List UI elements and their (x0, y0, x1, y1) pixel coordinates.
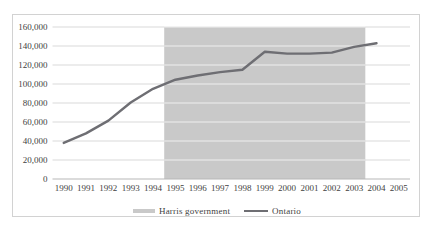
x-axis-label: 2004 (367, 183, 386, 193)
x-axis-label: 1992 (99, 183, 117, 193)
y-axis-label: 60,000 (23, 117, 48, 127)
x-axis-label: 2000 (278, 183, 297, 193)
y-axis-label: 80,000 (23, 98, 48, 108)
x-axis-label: 1993 (122, 183, 141, 193)
x-axis-label: 2005 (390, 183, 409, 193)
x-axis-label: 1991 (77, 183, 95, 193)
legend-item-ontario: Ontario (244, 206, 301, 216)
y-axis-label: 0 (43, 174, 48, 184)
x-axis-label: 1997 (211, 183, 230, 193)
y-axis-label: 140,000 (18, 41, 48, 51)
y-axis-label: 40,000 (23, 136, 48, 146)
x-axis-label: 1994 (144, 183, 163, 193)
legend-item-harris-government: Harris government (133, 206, 230, 216)
chart-frame: 020,00040,00060,00080,000100,000120,0001… (12, 14, 420, 217)
line-chart: 020,00040,00060,00080,000100,000120,0001… (13, 15, 421, 218)
harris-band-swatch-icon (133, 209, 155, 214)
y-axis-label: 120,000 (18, 60, 48, 70)
x-axis-label: 2003 (345, 183, 364, 193)
y-axis-label: 100,000 (18, 79, 48, 89)
legend-label-harris-government: Harris government (159, 206, 230, 216)
x-axis-label: 1990 (55, 183, 74, 193)
page: { "chart_data": { "type": "line", "title… (0, 0, 439, 235)
legend-label-ontario: Ontario (272, 206, 301, 216)
chart-legend: Harris government Ontario (13, 205, 421, 217)
y-axis-label: 20,000 (23, 155, 48, 165)
x-axis-label: 2002 (323, 183, 341, 193)
x-axis-label: 2001 (300, 183, 318, 193)
y-axis-label: 160,000 (18, 22, 48, 32)
x-axis-label: 1996 (189, 183, 208, 193)
x-axis-label: 1999 (256, 183, 275, 193)
x-axis-label: 1998 (233, 183, 252, 193)
ontario-line-swatch-icon (244, 210, 268, 213)
x-axis-label: 1995 (166, 183, 185, 193)
